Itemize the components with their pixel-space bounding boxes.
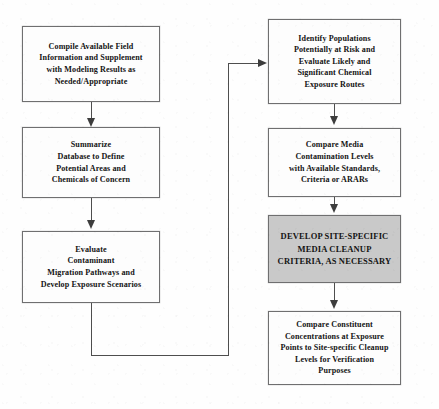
flowchart-canvas: Compile Available Field Information and … [0,0,439,409]
node-text: Identify Populations Potentially at Risk… [274,33,395,91]
node-identify-populations-at-risk: Identify Populations Potentially at Risk… [268,19,401,104]
node-summarize-database: Summarize Database to Define Potential A… [22,127,160,198]
node-develop-site-specific-media-cleanup-criteria: DEVELOP SITE-SPECIFIC MEDIA CLEANUP CRIT… [268,215,401,283]
node-text: Compare Media Contamination Levels with … [274,139,395,185]
node-compare-media-contamination-levels: Compare Media Contamination Levels with … [268,128,401,197]
node-compare-constituent-concentrations: Compare Constituent Concentrations at Ex… [268,311,401,385]
node-evaluate-contaminant-migration: Evaluate Contaminant Migration Pathways … [22,231,160,303]
node-text: Summarize Database to Define Potential A… [28,139,154,185]
node-text: Compare Constituent Concentrations at Ex… [274,319,395,377]
node-compile-available-field-information: Compile Available Field Information and … [22,26,160,102]
node-text: Compile Available Field Information and … [28,41,154,87]
node-text: DEVELOP SITE-SPECIFIC MEDIA CLEANUP CRIT… [274,230,395,267]
node-text: Evaluate Contaminant Migration Pathways … [28,244,154,290]
